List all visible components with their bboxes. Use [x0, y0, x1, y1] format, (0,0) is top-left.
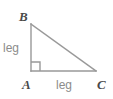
side-label-vertical-leg: leg	[3, 42, 19, 54]
vertex-label-a: A	[22, 78, 31, 91]
right-angle-marker-icon	[31, 62, 40, 71]
right-triangle-figure: B A C leg leg	[0, 0, 113, 99]
vertex-label-b: B	[19, 10, 28, 23]
triangle-side-hypotenuse	[31, 24, 96, 71]
side-label-horizontal-leg: leg	[56, 79, 72, 91]
vertex-label-c: C	[97, 78, 106, 91]
